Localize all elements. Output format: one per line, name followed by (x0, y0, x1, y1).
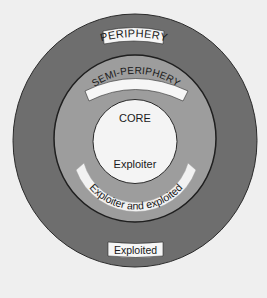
core-role-label: Exploiter (114, 158, 157, 170)
core-label: CORE (119, 112, 151, 124)
periphery-role-label: Exploited (114, 244, 157, 256)
world-systems-diagram: PERIPHERY SEMI-PERIPHERY CORE Exploiter … (0, 0, 267, 298)
